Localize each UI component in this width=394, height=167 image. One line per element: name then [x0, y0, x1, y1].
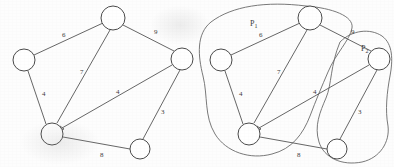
- partition-boundaries: [199, 4, 391, 163]
- graph-node[interactable]: [210, 49, 232, 71]
- edge-weight-label: 7: [277, 68, 281, 76]
- original-graph-nodes: [13, 6, 193, 159]
- partition-p1-label-subscript: 1: [254, 23, 257, 29]
- edge-weight-label: 4: [116, 88, 120, 96]
- graph-node[interactable]: [41, 123, 63, 145]
- diagram-canvas: 6 9 7 4 4 3 8: [0, 0, 394, 167]
- edge-weight-label: 4: [42, 90, 46, 98]
- edge-n3-n5: [143, 70, 180, 139]
- partition-p1-label: P1: [250, 19, 257, 29]
- edge-weight-label: 8: [297, 151, 301, 159]
- edge-n3-n4: [62, 65, 172, 128]
- graph-node[interactable]: [13, 49, 35, 71]
- graph-node[interactable]: [298, 6, 322, 30]
- graph-node[interactable]: [101, 6, 125, 30]
- edge-weight-label: 6: [62, 31, 66, 39]
- edge-weight-label: 9: [154, 28, 158, 36]
- partition-p1-outline: [199, 4, 352, 156]
- edge-n2-n3: [123, 25, 174, 51]
- edge-weight-label: 6: [259, 31, 263, 39]
- edge-weight-label: 4: [239, 90, 243, 98]
- graph-node[interactable]: [238, 123, 260, 145]
- partitioned-graph-nodes: [210, 6, 390, 159]
- partition-p2-label: P2: [361, 44, 368, 54]
- edge-m1-m2: [231, 23, 300, 55]
- partition-p2-label-subscript: 2: [365, 48, 368, 54]
- edge-n4-n5: [63, 137, 130, 149]
- edge-m3-m5: [340, 70, 377, 139]
- graph-node[interactable]: [171, 48, 193, 70]
- edge-m3-m4: [259, 65, 369, 128]
- edge-n1-n2: [34, 23, 103, 55]
- edge-weight-label: 3: [161, 108, 165, 116]
- edge-weight-label: 4: [313, 88, 317, 96]
- edge-n2-n4: [57, 30, 110, 123]
- graph-node[interactable]: [130, 139, 150, 159]
- partitioned-graph: 6 9 7 4 4 3 8 P1 P2: [199, 4, 391, 163]
- figure-root: 6 9 7 4 4 3 8: [0, 0, 394, 167]
- graph-node[interactable]: [368, 48, 390, 70]
- original-graph: 6 9 7 4 4 3 8: [13, 6, 193, 159]
- graph-node[interactable]: [327, 139, 347, 159]
- edge-m2-m4: [254, 30, 307, 123]
- edge-weight-label: 9: [351, 28, 355, 36]
- edge-weight-label: 3: [358, 108, 362, 116]
- edge-weight-label: 7: [80, 68, 84, 76]
- edge-m4-m5: [260, 137, 327, 149]
- edge-weight-label: 8: [100, 151, 104, 159]
